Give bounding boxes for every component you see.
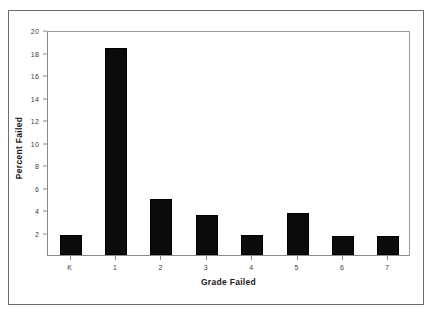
y-tick-mark bbox=[43, 143, 47, 144]
y-tick-label: 8 bbox=[35, 163, 39, 170]
x-tick-label: K bbox=[67, 264, 72, 271]
x-tick-label: 7 bbox=[385, 264, 389, 271]
x-tick-mark bbox=[387, 256, 388, 260]
x-tick-label: 4 bbox=[249, 264, 253, 271]
y-tick-mark bbox=[43, 98, 47, 99]
y-tick-label: 4 bbox=[35, 208, 39, 215]
x-tick-mark bbox=[251, 256, 252, 260]
y-tick-label: 10 bbox=[31, 140, 39, 147]
bar-6 bbox=[332, 236, 354, 255]
y-tick-label: 20 bbox=[31, 28, 39, 35]
plot-area bbox=[47, 31, 410, 256]
x-tick-label: 3 bbox=[204, 264, 208, 271]
x-tick-mark bbox=[160, 256, 161, 260]
x-tick-mark bbox=[342, 256, 343, 260]
x-axis-title: Grade Failed bbox=[47, 277, 410, 287]
x-tick-mark bbox=[297, 256, 298, 260]
y-tick-mark bbox=[43, 31, 47, 32]
x-tick-label: 6 bbox=[340, 264, 344, 271]
y-tick-label: 6 bbox=[35, 185, 39, 192]
y-tick-label: 16 bbox=[31, 73, 39, 80]
y-tick-label: 12 bbox=[31, 118, 39, 125]
y-axis-title: Percent Failed bbox=[14, 93, 24, 203]
y-tick-mark bbox=[43, 233, 47, 234]
x-tick-mark bbox=[206, 256, 207, 260]
y-tick-mark bbox=[43, 121, 47, 122]
bar-4 bbox=[241, 235, 263, 255]
y-tick-label: 14 bbox=[31, 95, 39, 102]
y-tick-mark bbox=[43, 211, 47, 212]
y-tick-mark bbox=[43, 76, 47, 77]
bar-3 bbox=[196, 215, 218, 256]
bar-1 bbox=[105, 48, 127, 255]
y-tick-label: 2 bbox=[35, 230, 39, 237]
chart-figure: 2468101214161820 K1234567 Grade Failed P… bbox=[0, 0, 434, 314]
bars-layer bbox=[48, 32, 409, 255]
y-tick-mark bbox=[43, 53, 47, 54]
x-tick-mark bbox=[115, 256, 116, 260]
bar-2 bbox=[150, 199, 172, 255]
y-tick-mark bbox=[43, 188, 47, 189]
bar-7 bbox=[377, 236, 399, 255]
y-tick-mark bbox=[43, 166, 47, 167]
x-tick-mark bbox=[70, 256, 71, 260]
x-tick-label: 1 bbox=[113, 264, 117, 271]
bar-5 bbox=[287, 213, 309, 255]
x-tick-label: 2 bbox=[158, 264, 162, 271]
bar-K bbox=[60, 235, 82, 255]
y-tick-label: 18 bbox=[31, 50, 39, 57]
x-tick-label: 5 bbox=[295, 264, 299, 271]
